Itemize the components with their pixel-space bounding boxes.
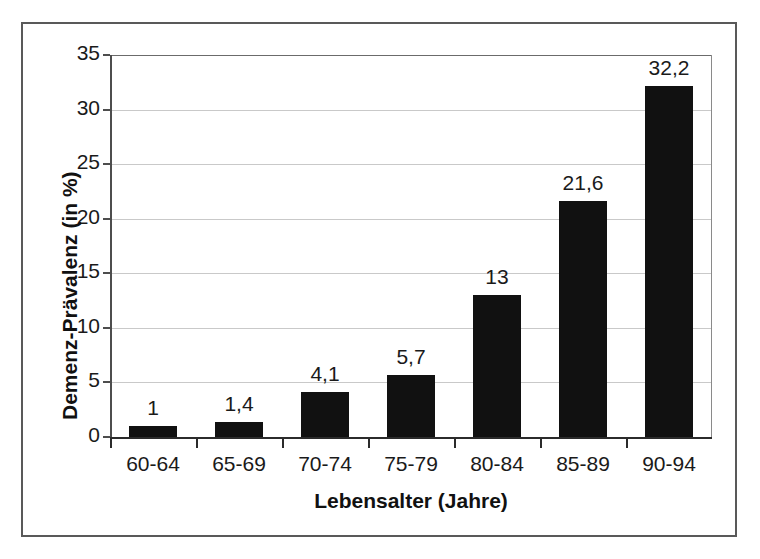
bar	[645, 86, 693, 437]
x-axis-category-label: 80-84	[447, 452, 547, 476]
bar-value-label: 21,6	[533, 171, 633, 195]
y-axis-tick	[103, 272, 110, 274]
x-axis-tick	[196, 439, 198, 448]
bar-value-label: 1,4	[189, 392, 289, 416]
y-axis-tick	[103, 218, 110, 220]
chart-figure: 05101520253035 11,44,15,71321,632,2 60-6…	[0, 0, 760, 559]
y-axis-tick	[103, 109, 110, 111]
bar	[387, 375, 435, 437]
bar	[129, 426, 177, 437]
bar-value-label: 5,7	[361, 345, 461, 369]
bar-value-label: 13	[447, 265, 547, 289]
y-axis-tick	[103, 327, 110, 329]
bar	[301, 392, 349, 437]
y-axis-tick	[103, 436, 110, 438]
x-axis-title: Lebensalter (Jahre)	[110, 489, 712, 513]
x-axis-tick	[368, 439, 370, 448]
x-axis-category-label: 65-69	[189, 452, 289, 476]
bar-value-label: 1	[103, 396, 203, 420]
y-axis-tick	[103, 54, 110, 56]
bar	[559, 201, 607, 437]
x-axis-tick	[626, 439, 628, 448]
x-axis-tick	[110, 439, 112, 448]
x-axis-category-label: 75-79	[361, 452, 461, 476]
bar-value-label: 32,2	[619, 56, 719, 80]
x-axis-tick	[540, 439, 542, 448]
x-axis-tick	[454, 439, 456, 448]
x-axis-category-label: 60-64	[103, 452, 203, 476]
bar-value-label: 4,1	[275, 362, 375, 386]
x-axis-category-label: 90-94	[619, 452, 719, 476]
y-axis-tick	[103, 381, 110, 383]
y-axis-title: Demenz-Prävalenz (in %)	[58, 20, 82, 420]
x-axis-category-label: 85-89	[533, 452, 633, 476]
bars-group	[110, 55, 712, 437]
x-axis-category-label: 70-74	[275, 452, 375, 476]
y-axis-tick-label: 0	[58, 423, 100, 447]
x-axis-tick	[282, 439, 284, 448]
y-axis-tick	[103, 163, 110, 165]
bar	[473, 295, 521, 437]
x-axis-line	[110, 437, 712, 439]
bar	[215, 422, 263, 437]
